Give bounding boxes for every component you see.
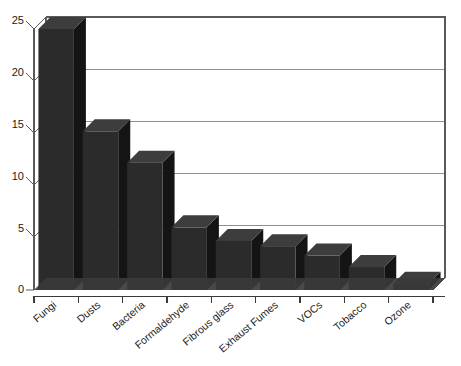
ytick-label-25: 25 <box>12 14 24 26</box>
plot-floor-front-face <box>34 278 445 290</box>
ytick-label-5: 5 <box>18 222 24 234</box>
bar-dusts[interactable] <box>83 119 130 290</box>
ytick-label-0: 0 <box>18 283 24 295</box>
x-axis-label-tobacco: Tobacco <box>331 298 369 332</box>
bar-chart: 25 20 15 10 5 0 FungiDustsBacteri <box>0 0 461 366</box>
bar-front-face <box>127 163 162 290</box>
bar-front-face <box>38 29 73 290</box>
ytick-label-10: 10 <box>12 170 24 182</box>
x-axis-label-fungi: Fungi <box>31 298 59 324</box>
ytick-label-15: 15 <box>12 118 24 130</box>
ytick-label-20: 20 <box>12 66 24 78</box>
x-axis-label-bacteria: Bacteria <box>110 298 147 332</box>
bar-fungi[interactable] <box>38 17 85 290</box>
bar-bacteria[interactable] <box>127 151 174 290</box>
chart-canvas: 25 20 15 10 5 0 FungiDustsBacteri <box>0 0 461 366</box>
x-axis-labels: FungiDustsBacteriaFormaldehydeFibrous gl… <box>31 298 414 354</box>
x-axis-label-ozone: Ozone <box>382 298 414 327</box>
bar-front-face <box>83 131 118 290</box>
